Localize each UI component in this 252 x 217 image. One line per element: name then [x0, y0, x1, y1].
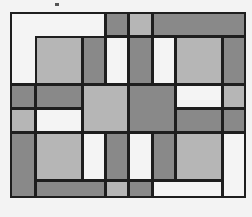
- top-tick-mark: [55, 3, 59, 6]
- grid-cell-light: [128, 12, 153, 37]
- grid-cell-light: [175, 36, 223, 85]
- grid-cell-dark: [152, 132, 176, 181]
- grid-cell-dark: [222, 108, 246, 133]
- grid-cell-light: [82, 84, 129, 133]
- grid-cell-white: [128, 132, 153, 181]
- grid-cell-white: [35, 108, 83, 133]
- grid-cell-dark: [10, 132, 36, 198]
- grid-cell-dark: [175, 108, 223, 133]
- grid-cell-dark: [35, 84, 83, 109]
- grid-cell-dark: [35, 180, 106, 198]
- grid-cell-light: [105, 180, 129, 198]
- grid-cell-light: [10, 108, 36, 133]
- grid-cell-dark: [105, 132, 129, 181]
- grid-cell-dark: [10, 84, 36, 109]
- grid-cell-white: [222, 132, 246, 198]
- grid-cell-light: [175, 132, 223, 181]
- grid-cell-white: [175, 84, 223, 109]
- grid-cell-white: [105, 36, 129, 85]
- grid-cell-light: [222, 84, 246, 109]
- grid-cell-dark: [152, 12, 246, 37]
- mondrian-grid-diagram: [0, 0, 252, 217]
- grid-cell-dark: [128, 84, 176, 133]
- grid-cell-dark: [128, 180, 153, 198]
- grid-cell-dark: [222, 36, 246, 85]
- grid-cell-white: [82, 132, 106, 181]
- grid-cell-dark: [105, 12, 129, 37]
- grid-cell-light: [35, 36, 83, 85]
- grid-cell-light: [35, 132, 83, 181]
- grid-cell-white: [152, 180, 223, 198]
- grid-cell-white: [152, 36, 176, 85]
- grid-cell-dark: [82, 36, 106, 85]
- grid-cell-dark: [128, 36, 153, 85]
